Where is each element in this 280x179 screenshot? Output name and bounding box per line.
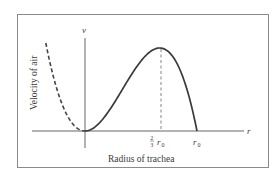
y-axis-label: Velocity of air xyxy=(29,55,39,110)
x-axis-label: Radius of trachea xyxy=(108,154,175,164)
svg-text:0: 0 xyxy=(162,142,165,148)
chart: v r Velocity of air Radius of trachea 2 … xyxy=(0,0,280,179)
chart-frame xyxy=(18,15,269,168)
svg-text:3: 3 xyxy=(151,142,154,148)
svg-text:2: 2 xyxy=(151,135,154,141)
x-axis-symbol: r xyxy=(247,126,251,136)
svg-text:0: 0 xyxy=(198,142,201,148)
y-axis-symbol: v xyxy=(82,25,86,35)
svg-text:r: r xyxy=(157,137,161,147)
svg-text:r: r xyxy=(193,137,197,147)
